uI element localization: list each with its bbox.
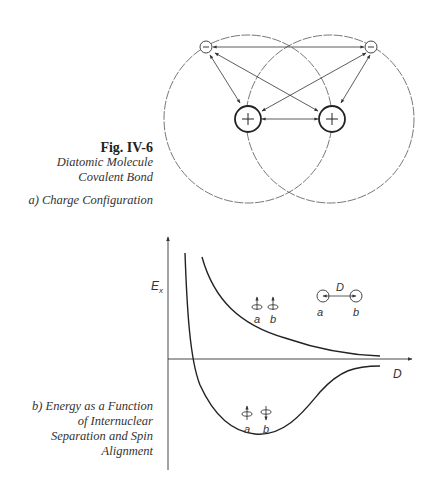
part-b-caption-line4: Alignment	[10, 444, 153, 459]
spin-parallel-b-label: b	[270, 313, 276, 325]
force-arrows	[210, 47, 370, 119]
part-b-caption-line2: of Internuclear	[10, 414, 153, 429]
figure-title-line1: Diatomic Molecule	[10, 155, 153, 170]
figure-caption-b: b) Energy as a Function of Internuclear …	[10, 399, 153, 459]
part-b-caption-line1: b) Energy as a Function	[10, 399, 153, 414]
electron-upper-left	[200, 41, 212, 53]
spin-parallel-symbols	[252, 297, 278, 310]
spin-parallel-a-label: a	[254, 313, 260, 325]
x-axis-label: D	[393, 367, 402, 381]
svg-text:b: b	[353, 306, 359, 318]
figure-title-line2: Covalent Bond	[10, 170, 153, 185]
spin-antiparallel-a-label: a	[244, 423, 250, 435]
y-axis-label: Ex	[151, 279, 164, 295]
spin-antiparallel-symbols	[242, 406, 271, 420]
svg-text:D: D	[336, 281, 344, 293]
part-a-caption: a) Charge Configuration	[10, 193, 153, 208]
nucleus-left	[235, 106, 261, 132]
figure-number: Fig. IV-6	[10, 140, 153, 155]
nucleus-right	[319, 106, 345, 132]
part-b-caption-line3: Separation and Spin	[10, 429, 153, 444]
curve-antiparallel-spins	[185, 253, 380, 434]
separation-inset: D a b	[317, 281, 362, 318]
figure-caption-a: Fig. IV-6 Diatomic Molecule Covalent Bon…	[10, 140, 153, 208]
electron-upper-right	[365, 41, 377, 53]
energy-chart: Ex D D a b a b	[151, 237, 412, 470]
spin-antiparallel-b-label: b	[263, 423, 269, 435]
svg-text:a: a	[317, 306, 323, 318]
